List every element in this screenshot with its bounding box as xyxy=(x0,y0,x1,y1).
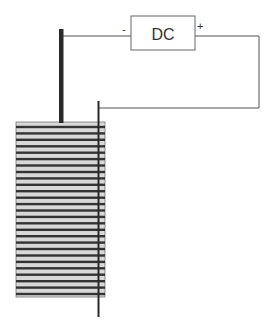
plate-stripe xyxy=(16,203,105,205)
plate-stripe xyxy=(16,222,105,224)
plate-stripe xyxy=(16,209,105,211)
electrolysis-diagram: DC - + xyxy=(0,0,272,330)
plate-stripe xyxy=(16,286,105,288)
plate-stripe xyxy=(16,132,105,134)
plate-stripe xyxy=(16,229,105,231)
plate-stripe xyxy=(16,241,105,243)
plate-stripe xyxy=(16,197,105,199)
plate-stripe xyxy=(16,280,105,282)
plate-stripe xyxy=(16,152,105,154)
dc-source: DC - + xyxy=(122,16,203,50)
plate-stripe xyxy=(16,145,105,147)
plate-stripe xyxy=(16,261,105,263)
plate-stripe xyxy=(16,190,105,192)
plate-stripe xyxy=(16,126,105,128)
plate-stripe xyxy=(16,158,105,160)
plate-stripe xyxy=(16,293,105,295)
cathode-electrode xyxy=(59,29,64,123)
plate-stripe xyxy=(16,267,105,269)
dc-label: DC xyxy=(151,26,174,43)
plate-stripe xyxy=(16,164,105,166)
plate-stripe xyxy=(16,254,105,256)
plate-stripe xyxy=(16,216,105,218)
plate-stripe xyxy=(16,171,105,173)
plate-stripe xyxy=(16,139,105,141)
plate-stripe xyxy=(16,184,105,186)
anode-electrode xyxy=(98,101,100,317)
plate-stripe xyxy=(16,235,105,237)
plate-stack xyxy=(16,122,105,297)
plate-stripe xyxy=(16,274,105,276)
plate-stripe xyxy=(16,248,105,250)
positive-terminal-label: + xyxy=(197,20,203,32)
plate-stripe xyxy=(16,177,105,179)
negative-terminal-label: - xyxy=(122,23,126,35)
